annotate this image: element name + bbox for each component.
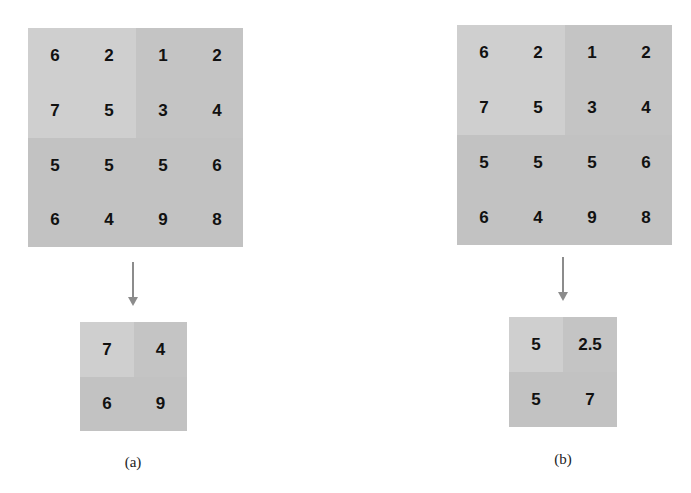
- cell: 2: [619, 25, 673, 80]
- cell: 2.5: [563, 317, 617, 372]
- cell: 5: [82, 83, 136, 138]
- cell: 5: [509, 317, 563, 372]
- cell: 5: [136, 138, 190, 193]
- cell: 7: [563, 372, 617, 427]
- cell: 5: [511, 80, 565, 135]
- cell: 2: [190, 28, 244, 83]
- cell: 1: [565, 25, 619, 80]
- cell: 7: [28, 83, 82, 138]
- output-grid-b: 5 2.5 5 7: [509, 317, 617, 427]
- cell: 7: [80, 322, 134, 377]
- cell: 4: [190, 83, 244, 138]
- cell: 2: [82, 28, 136, 83]
- cell: 5: [509, 372, 563, 427]
- cell: 3: [136, 83, 190, 138]
- cell: 4: [619, 80, 673, 135]
- cell: 7: [457, 80, 511, 135]
- cell: 5: [565, 135, 619, 190]
- input-grid-a: 6 2 1 2 7 5 3 4 5 5 5 6 6 4 9 8: [28, 28, 243, 247]
- cell: 5: [82, 138, 136, 193]
- cell: 1: [136, 28, 190, 83]
- cell: 4: [82, 193, 136, 247]
- caption-a: (a): [113, 454, 153, 471]
- cell: 8: [619, 190, 673, 245]
- cell: 6: [190, 138, 244, 193]
- arrow-head-icon: [128, 297, 138, 306]
- cell: 6: [28, 28, 82, 83]
- cell: 6: [619, 135, 673, 190]
- cell: 6: [457, 25, 511, 80]
- output-grid-a: 7 4 6 9: [80, 322, 187, 431]
- cell: 6: [457, 190, 511, 245]
- down-arrow-icon: [132, 262, 134, 298]
- cell: 6: [80, 377, 134, 431]
- cell: 8: [190, 193, 244, 247]
- input-grid-b: 6 2 1 2 7 5 3 4 5 5 5 6 6 4 9 8: [457, 25, 672, 245]
- cell: 5: [457, 135, 511, 190]
- cell: 2: [511, 25, 565, 80]
- cell: 4: [134, 322, 187, 377]
- down-arrow-icon: [562, 257, 564, 293]
- cell: 5: [28, 138, 82, 193]
- cell: 3: [565, 80, 619, 135]
- cell: 9: [565, 190, 619, 245]
- cell: 9: [134, 377, 187, 431]
- cell: 6: [28, 193, 82, 247]
- cell: 5: [511, 135, 565, 190]
- cell: 4: [511, 190, 565, 245]
- cell: 9: [136, 193, 190, 247]
- arrow-head-icon: [558, 292, 568, 301]
- caption-b: (b): [543, 451, 583, 468]
